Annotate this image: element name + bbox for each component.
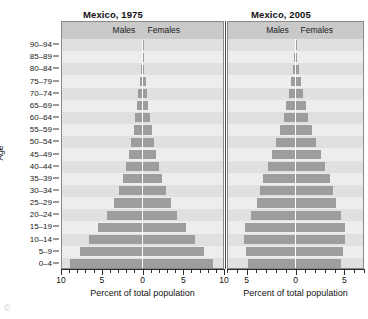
y-axis-tick xyxy=(53,68,59,69)
x-axis-minor-tick xyxy=(69,269,70,273)
y-axis-tick xyxy=(53,262,59,263)
bar-females xyxy=(143,150,157,159)
bar-males xyxy=(248,259,295,268)
legend-males-2005: Males xyxy=(266,25,289,35)
bar-males xyxy=(245,223,295,232)
bar-females xyxy=(296,65,299,74)
y-axis-tick xyxy=(53,104,59,105)
bar-males xyxy=(251,211,295,220)
x-axis-tick-label: 5 xyxy=(181,275,186,285)
y-axis-tick xyxy=(53,56,59,57)
bar-females xyxy=(143,162,159,171)
y-axis-tick xyxy=(53,129,59,130)
y-axis-tick-label: 70–74 xyxy=(30,88,52,97)
x-axis-minor-tick xyxy=(227,269,228,273)
bar-females xyxy=(296,125,312,134)
x-axis-minor-tick xyxy=(159,269,160,273)
panel-header-2005: Males Females xyxy=(228,22,363,40)
bar-females xyxy=(296,138,316,147)
y-axis-tick-label: 35–39 xyxy=(30,173,52,182)
x-axis-minor-tick xyxy=(276,269,277,273)
y-axis-tick xyxy=(53,177,59,178)
legend-males-1975: Males xyxy=(113,25,136,35)
y-axis-tick-label: 5–9 xyxy=(39,246,52,255)
zero-line-1975 xyxy=(142,39,143,268)
chart-title-right: Mexico, 2005 xyxy=(251,9,311,20)
x-axis-minor-tick xyxy=(237,269,238,273)
legend-females-2005: Females xyxy=(301,25,334,35)
bar-females xyxy=(143,235,195,244)
bar-females xyxy=(143,211,178,220)
x-axis-minor-tick xyxy=(151,269,152,273)
bar-males xyxy=(89,235,143,244)
bar-females xyxy=(296,259,341,268)
y-axis-tick xyxy=(53,92,59,93)
x-axis-tick-label: 5 xyxy=(99,275,104,285)
x-axis-tick-label: 0 xyxy=(140,275,145,285)
y-axis-tick-label: 60–64 xyxy=(30,113,52,122)
plot-area-2005 xyxy=(228,39,363,268)
pyramid-panel-2005: Males Females xyxy=(227,21,364,269)
x-axis-minor-tick xyxy=(175,269,176,273)
bar-females xyxy=(296,186,334,195)
x-axis-minor-tick xyxy=(208,269,209,273)
y-axis-tick xyxy=(53,250,59,251)
bar-males xyxy=(119,186,142,195)
y-axis-tick xyxy=(53,202,59,203)
x-axis-tick-label: 5 xyxy=(244,275,249,285)
bar-females xyxy=(296,247,343,256)
y-axis-tick xyxy=(53,153,59,154)
figure-root: Mexico, 1975 Mexico, 2005 Age 0–45–910–1… xyxy=(0,0,368,319)
y-axis-tick-label: 75–79 xyxy=(30,76,52,85)
y-axis-tick xyxy=(53,44,59,45)
y-axis-tick xyxy=(53,214,59,215)
bar-males xyxy=(263,174,296,183)
y-axis-tick-label: 45–49 xyxy=(30,149,52,158)
bar-females xyxy=(296,211,341,220)
zero-line-2005 xyxy=(295,39,296,268)
bar-females xyxy=(143,125,153,134)
legend-females-1975: Females xyxy=(148,25,181,35)
x-axis-tick-label: 10 xyxy=(56,275,65,285)
bar-males xyxy=(129,150,143,159)
x-axis-minor-tick xyxy=(167,269,168,273)
bar-males xyxy=(123,174,142,183)
bar-males xyxy=(257,198,296,207)
x-axis-minor-tick xyxy=(256,269,257,273)
x-axis-minor-tick xyxy=(200,269,201,273)
bar-females xyxy=(296,89,304,98)
x-axis-minor-tick xyxy=(85,269,86,273)
x-axis-minor-tick xyxy=(110,269,111,273)
x-axis-minor-tick xyxy=(354,269,355,273)
bar-males xyxy=(131,138,142,147)
panel-header-1975: Males Females xyxy=(62,22,223,40)
y-axis-tick-label: 50–54 xyxy=(30,137,52,146)
x-axis-title-1975: Percent of total population xyxy=(90,288,195,298)
bar-males xyxy=(280,125,295,134)
bar-females xyxy=(143,138,154,147)
y-axis-tick-label: 65–69 xyxy=(30,100,52,109)
y-axis-tick-label: 80–84 xyxy=(30,64,52,73)
bar-males xyxy=(107,211,142,220)
bar-males xyxy=(114,198,143,207)
bar-males xyxy=(126,162,142,171)
bar-females xyxy=(296,235,345,244)
y-axis-tick xyxy=(53,226,59,227)
x-axis-minor-tick xyxy=(126,269,127,273)
page-artifact: © xyxy=(4,303,11,313)
bar-males xyxy=(260,186,296,195)
bar-females xyxy=(143,198,171,207)
x-axis-minor-tick xyxy=(191,269,192,273)
bar-females xyxy=(296,174,331,183)
x-axis-minor-tick xyxy=(134,269,135,273)
y-axis-tick-label: 25–29 xyxy=(30,198,52,207)
x-axis-minor-tick xyxy=(266,269,267,273)
x-axis-minor-tick xyxy=(325,269,326,273)
y-axis-tick-label: 10–14 xyxy=(30,234,52,243)
y-axis-tick xyxy=(53,165,59,166)
bar-females xyxy=(296,162,326,171)
bar-males xyxy=(272,150,295,159)
y-axis-tick-label: 0–4 xyxy=(39,258,52,267)
bar-females xyxy=(143,223,186,232)
chart-title-left: Mexico, 1975 xyxy=(83,9,143,20)
